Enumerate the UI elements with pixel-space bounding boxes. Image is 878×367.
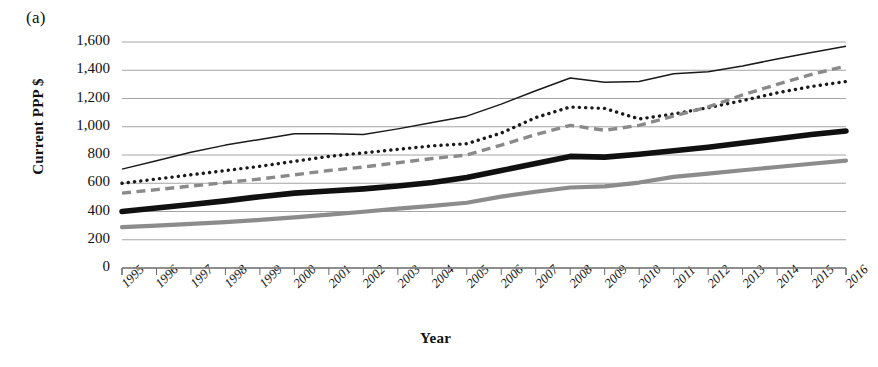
- figure-panel-a: (a) Current PPP $ Year 1,6001,4001,2001,…: [0, 0, 878, 367]
- gridlines: [122, 42, 846, 268]
- chart-plot-area: [0, 0, 878, 367]
- series-gray-solid: [122, 161, 846, 227]
- data-series-layer: [122, 46, 846, 227]
- x-axis-tick-marks: [122, 268, 846, 275]
